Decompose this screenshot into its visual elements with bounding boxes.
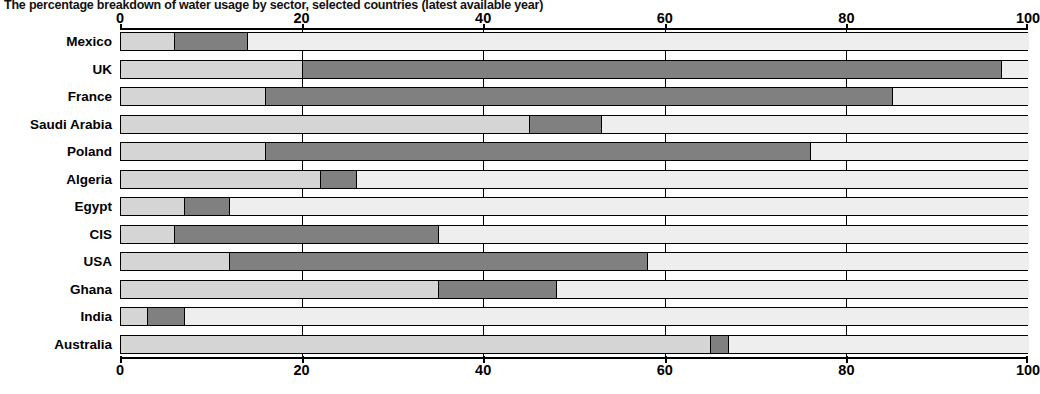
bar-row xyxy=(120,252,1028,271)
bar-row xyxy=(120,335,1028,354)
bar-segment-domestic xyxy=(121,61,303,78)
category-label-india: India xyxy=(0,309,112,324)
bar-segment-domestic xyxy=(121,226,175,243)
bar-segment-domestic xyxy=(121,253,230,270)
bar-segment-agriculture xyxy=(602,116,1029,133)
bar-row xyxy=(120,170,1028,189)
x-tick-label-bottom: 80 xyxy=(838,362,854,378)
category-label-france: France xyxy=(0,89,112,104)
x-tick-label-bottom: 100 xyxy=(1016,362,1040,378)
bar-segment-domestic xyxy=(121,143,266,160)
bar-row xyxy=(120,280,1028,299)
bar-segment-domestic xyxy=(121,116,530,133)
bar-segment-agriculture xyxy=(439,226,1029,243)
bar-segment-agriculture xyxy=(230,198,1029,215)
x-tick-label-bottom: 0 xyxy=(116,362,124,378)
bar-segment-industry xyxy=(175,33,248,50)
category-label-uk: UK xyxy=(0,62,112,77)
bar-row xyxy=(120,197,1028,216)
bar-segment-domestic xyxy=(121,33,175,50)
bar-segment-agriculture xyxy=(811,143,1029,160)
bar-segment-industry xyxy=(185,198,230,215)
category-label-cis: CIS xyxy=(0,227,112,242)
category-label-usa: USA xyxy=(0,254,112,269)
category-label-mexico: Mexico xyxy=(0,34,112,49)
bar-segment-industry xyxy=(230,253,648,270)
category-label-ghana: Ghana xyxy=(0,282,112,297)
bar-row xyxy=(120,142,1028,161)
chart-title: The percentage breakdown of water usage … xyxy=(4,0,543,12)
x-tick-label-bottom: 20 xyxy=(294,362,310,378)
bar-segment-industry xyxy=(321,171,357,188)
category-label-australia: Australia xyxy=(0,337,112,352)
bar-segment-industry xyxy=(303,61,1002,78)
bar-segment-agriculture xyxy=(729,336,1029,353)
bar-row xyxy=(120,60,1028,79)
category-label-egypt: Egypt xyxy=(0,199,112,214)
bar-segment-agriculture xyxy=(185,308,1029,325)
bar-segment-agriculture xyxy=(557,281,1029,298)
category-label-saudi-arabia: Saudi Arabia xyxy=(0,117,112,132)
bar-segment-domestic xyxy=(121,88,266,105)
bar-segment-domestic xyxy=(121,198,185,215)
category-label-poland: Poland xyxy=(0,144,112,159)
bar-segment-industry xyxy=(175,226,438,243)
bar-segment-domestic xyxy=(121,308,148,325)
bar-row xyxy=(120,115,1028,134)
bar-segment-agriculture xyxy=(1002,61,1029,78)
bar-segment-industry xyxy=(148,308,184,325)
bar-row xyxy=(120,87,1028,106)
bar-row xyxy=(120,32,1028,51)
x-tick-label-bottom: 60 xyxy=(657,362,673,378)
bar-segment-domestic xyxy=(121,281,439,298)
bar-row xyxy=(120,307,1028,326)
plot-area xyxy=(120,28,1028,358)
bar-segment-domestic xyxy=(121,336,711,353)
category-label-algeria: Algeria xyxy=(0,172,112,187)
bar-segment-agriculture xyxy=(357,171,1029,188)
bar-row xyxy=(120,225,1028,244)
bar-segment-industry xyxy=(711,336,729,353)
bar-segment-industry xyxy=(266,88,893,105)
bar-segment-agriculture xyxy=(648,253,1029,270)
bar-segment-domestic xyxy=(121,171,321,188)
bar-segment-industry xyxy=(439,281,557,298)
bar-segment-agriculture xyxy=(248,33,1029,50)
x-tick-label-bottom: 40 xyxy=(475,362,491,378)
bar-segment-industry xyxy=(266,143,811,160)
bar-segment-agriculture xyxy=(893,88,1029,105)
bar-segment-industry xyxy=(530,116,603,133)
